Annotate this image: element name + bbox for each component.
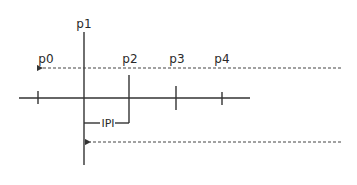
label-p2: p2 [122, 52, 137, 66]
label-p1: p1 [76, 17, 91, 31]
label-p3: p3 [169, 52, 184, 66]
ipi-diagram: p1 p0 p2 p3 p4 IPI [0, 0, 357, 185]
label-p4: p4 [214, 52, 229, 66]
label-ipi: IPI [101, 117, 114, 130]
label-p0: p0 [38, 52, 53, 66]
